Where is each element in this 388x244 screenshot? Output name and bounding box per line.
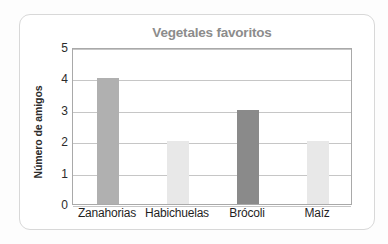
y-axis-tick-label: 3 [48,104,68,118]
bar-slot [143,49,213,204]
bar [167,141,189,204]
y-axis-tick-label: 5 [48,41,68,55]
y-axis-tick-label: 4 [48,72,68,86]
y-axis-tick-label: 0 [48,198,68,212]
y-axis-title: Número de amigos [32,72,44,192]
bar-series [73,49,351,204]
bar-slot [73,49,143,204]
plot-area [72,48,352,205]
chart-title: Vegetales favoritos [72,25,352,40]
y-axis-tick-label: 1 [48,167,68,181]
scanned-page: Vegetales favoritos Número de amigos 012… [0,0,388,244]
bar [307,141,329,204]
x-axis-tick-label: Brócoli [229,206,264,220]
x-axis-tick-label: Zanahorias [78,206,136,220]
x-axis-tick-label: Maíz [304,206,329,220]
bar-chart: Vegetales favoritos Número de amigos 012… [0,0,388,244]
bar-slot [283,49,353,204]
bar-slot [213,49,283,204]
y-axis-tick-labels: 012345 [48,48,68,205]
x-axis-tick-labels: ZanahoriasHabichuelasBrócoliMaíz [72,206,352,228]
bar [97,78,119,204]
bar [237,110,259,204]
y-axis-tick-label: 2 [48,135,68,149]
x-axis-tick-label: Habichuelas [145,206,209,220]
